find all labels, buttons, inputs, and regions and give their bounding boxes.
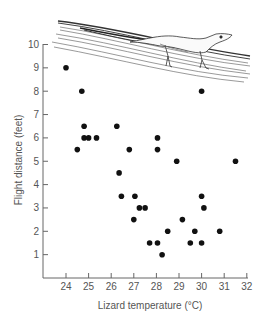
y-tick-label: 1 <box>33 249 39 260</box>
x-tick-label: 30 <box>196 281 208 292</box>
data-point <box>75 147 81 153</box>
data-point <box>127 147 133 153</box>
data-point <box>81 123 87 129</box>
data-point <box>131 217 137 223</box>
data-point <box>192 229 198 235</box>
data-point <box>233 159 239 165</box>
data-point <box>174 159 180 165</box>
branch-icon <box>52 21 250 82</box>
y-tick-label: 10 <box>28 39 40 50</box>
data-point <box>94 135 100 141</box>
data-point <box>199 88 205 94</box>
y-tick-label: 8 <box>33 86 39 97</box>
data-points <box>63 65 238 258</box>
y-tick-label: 7 <box>33 109 39 120</box>
data-point <box>114 123 120 129</box>
x-tick-label: 32 <box>241 281 253 292</box>
data-point <box>199 194 205 200</box>
data-point <box>116 170 122 176</box>
data-point <box>155 147 161 153</box>
scatter-chart: 12345678910 242526272829303132 Lizard te… <box>0 0 272 322</box>
y-tick-label: 2 <box>33 226 39 237</box>
x-tick-label: 25 <box>83 281 95 292</box>
x-tick-label: 24 <box>60 281 72 292</box>
y-tick-label: 3 <box>33 202 39 213</box>
data-point <box>155 135 161 141</box>
y-axis-ticks: 12345678910 <box>28 39 48 260</box>
data-point <box>155 240 161 246</box>
data-point <box>86 135 92 141</box>
data-point <box>188 240 194 246</box>
y-tick-label: 9 <box>33 62 39 73</box>
data-point <box>180 217 186 223</box>
data-point <box>119 194 125 200</box>
lizard-illustration <box>52 21 250 82</box>
x-axis-title: Lizard temperature (°C) <box>98 300 203 311</box>
data-point <box>147 240 153 246</box>
data-point <box>217 229 223 235</box>
data-point <box>199 240 205 246</box>
y-tick-label: 4 <box>33 179 39 190</box>
data-point <box>201 205 207 211</box>
x-tick-label: 27 <box>128 281 140 292</box>
x-axis-ticks: 242526272829303132 <box>60 273 252 292</box>
data-point <box>79 88 85 94</box>
data-point <box>165 229 171 235</box>
data-point <box>142 205 148 211</box>
x-tick-label: 28 <box>151 281 163 292</box>
data-point <box>63 65 69 71</box>
x-tick-label: 31 <box>219 281 231 292</box>
y-tick-label: 6 <box>33 132 39 143</box>
x-tick-label: 26 <box>106 281 118 292</box>
axes: 12345678910 242526272829303132 <box>28 39 253 292</box>
x-tick-label: 29 <box>173 281 185 292</box>
data-point <box>132 194 138 200</box>
data-point <box>159 252 165 258</box>
y-axis-title: Flight distance (feet) <box>13 115 24 206</box>
y-tick-label: 5 <box>33 156 39 167</box>
data-point <box>137 205 143 211</box>
